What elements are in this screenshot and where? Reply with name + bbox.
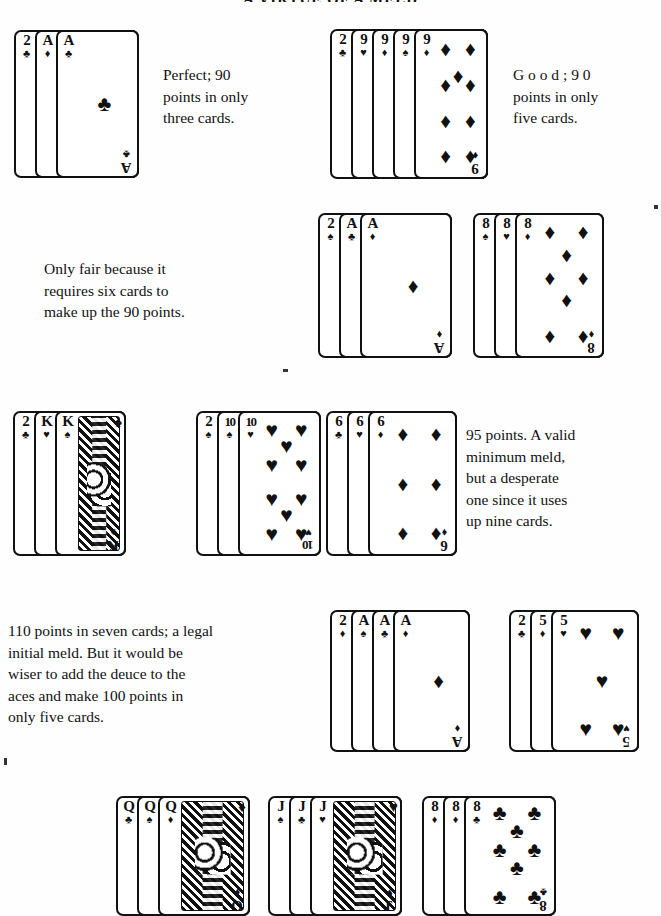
card-suit-hearts-icon: ♥ [265,524,277,545]
playing-card: 8♦♦♦♦♦♦♦♦♦8♦ [515,213,604,358]
caption-line: G o o d ; 9 0 [513,64,661,86]
playing-card: 6♦♦♦♦♦♦♦6♦ [368,411,457,556]
card-suit-diamonds-icon: ♦ [335,628,350,638]
card-suit-spades-icon: ♠ [114,414,122,431]
card-corner-index: 5♥ [556,613,571,638]
card-suit-spades-icon: ♠ [201,429,216,439]
card-suit-clubs-icon: ♣ [536,888,551,898]
card-suit-diamonds-icon: ♦ [520,231,535,241]
card-rank: A [450,734,465,749]
card-corner-index: 5♦ [535,613,550,638]
card-suit-hearts-icon: ♥ [389,799,398,816]
card-suit-diamonds-icon: ♦ [40,48,55,58]
card-corner-index-bottom: 5♥ [619,724,634,749]
playing-card: K♠♠K♠ [55,411,126,556]
card-suit-clubs-icon: ♣ [335,47,350,57]
card-suit-clubs-icon: ♣ [493,802,507,823]
card-corner-index: 8♠ [478,216,493,241]
card-suit-diamonds-icon: ♦ [453,66,464,87]
caption-example-5: 110 points in seven cards; a legal initi… [8,620,293,728]
card-suit-hearts-icon: ♥ [265,420,277,441]
card-corner-index: 8♦ [448,799,463,824]
card-corner-index: A♦ [398,613,413,638]
card-corner-index: 6♦ [373,414,388,439]
caption-line: only five cards. [8,706,293,728]
card-rank: Q [142,799,157,814]
card-fan-example-4-group-3: 6♣6♥6♦♦♦♦♦♦♦6♦ [326,411,457,556]
card-rank: 9 [377,32,392,47]
playing-card: 9♦♦♦♦♦♦♦♦♦♦9♦ [414,29,488,179]
card-corner-index-bottom: 6♦ [437,528,452,553]
card-suit-hearts-icon: ♥ [619,724,634,734]
card-suit-diamonds-icon: ♦ [440,38,451,59]
card-suit-hearts-icon: ♥ [612,622,624,643]
card-rank: 5 [556,613,571,628]
card-corner-index: 2♠ [323,216,338,241]
card-corner-index: 2♣ [18,414,33,439]
card-suit-diamonds-icon: ♦ [427,814,442,824]
card-corner-index: 8♦ [427,799,442,824]
card-suit-diamonds-icon: ♦ [450,724,465,734]
card-suit-spades-icon: ♠ [356,628,371,638]
card-rank: 9 [356,32,371,47]
card-rank: 8 [536,898,551,913]
card-corner-index: 8♣ [469,799,484,824]
card-suit-clubs-icon: ♣ [344,231,359,241]
card-suit-diamonds-icon: ♦ [432,330,447,340]
card-rank: 2 [323,216,338,231]
card-rank: 10 [301,538,316,553]
card-suit-clubs-icon: ♣ [61,48,76,58]
playing-card: 10♥♥♥♥♥♥♥♥♥♥♥10♥ [238,411,321,556]
caption-line: 95 points. A valid [466,424,661,446]
card-suit-diamonds-icon: ♦ [465,110,476,131]
card-suit-hearts-icon: ♥ [295,420,307,441]
card-suit-clubs-icon: ♣ [493,887,507,908]
playing-card: 8♣♣♣♣♣♣♣♣♣8♣ [464,796,556,916]
card-suit-clubs-icon: ♣ [119,150,134,160]
caption-line: make up the 90 points. [44,301,270,323]
card-rank: J [382,898,397,913]
card-rank: A [119,160,134,175]
card-rank: 8 [478,216,493,231]
card-corner-index: Q♦ [163,799,178,824]
card-corner-index: 2♣ [335,32,350,57]
card-suit-hearts-icon: ♥ [265,454,277,475]
card-suit-clubs-icon: ♣ [294,814,309,824]
card-suit-hearts-icon: ♥ [39,429,54,439]
card-rank: K [60,414,75,429]
card-rank: 2 [18,414,33,429]
card-suit-hearts-icon: ♥ [580,622,592,643]
card-suit-diamonds-icon: ♦ [465,74,476,95]
card-suit-clubs-icon: ♣ [527,802,541,823]
card-rank: Q [121,799,136,814]
card-corner-index: A♦ [365,216,380,241]
card-corner-index-bottom: A♦ [432,330,447,355]
card-rank: 2 [514,613,529,628]
card-corner-index: 2♦ [335,613,350,638]
card-suit-diamonds-icon: ♦ [561,290,572,311]
card-fan-example-4-group-1: 2♣K♥K♠♠K♠ [13,411,126,556]
card-fan-example-6-group-3: 8♦8♦8♣♣♣♣♣♣♣♣♣8♣ [422,796,556,916]
card-rank: A [40,33,55,48]
caption-line: up nine cards. [466,510,661,532]
card-rank: 8 [448,799,463,814]
card-corner-index-bottom: K♠ [106,528,121,553]
card-corner-index-bottom: A♣ [119,150,134,175]
card-rank: A [377,613,392,628]
card-corner-index: 2♣ [514,613,529,638]
card-rank: 10 [222,414,237,429]
card-rank: 8 [499,216,514,231]
card-suit-diamonds-icon: ♦ [545,222,556,243]
card-rank: 5 [535,613,550,628]
scan-speck [283,369,288,372]
card-suit-spades-icon: ♠ [60,429,75,439]
card-rank: 8 [584,340,599,355]
card-suit-clubs-icon: ♣ [98,94,112,115]
card-suit-diamonds-icon: ♦ [398,424,409,445]
card-corner-index-bottom: A♦ [450,724,465,749]
card-suit-hearts-icon: ♥ [356,47,371,57]
caption-line: wiser to add the deuce to the [8,663,293,685]
card-suit-spades-icon: ♠ [273,814,288,824]
card-suit-diamonds-icon: ♦ [398,628,413,638]
card-rank: 9 [419,32,434,47]
